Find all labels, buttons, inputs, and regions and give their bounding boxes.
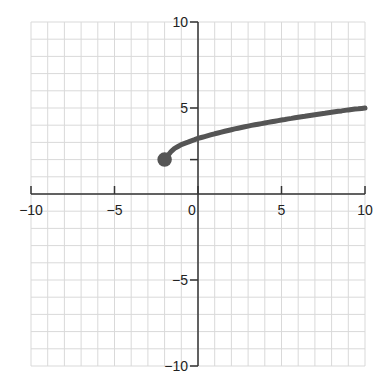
y-tick-label: −10 — [164, 358, 188, 374]
y-tick-label: −5 — [172, 272, 188, 288]
x-tick-label: −5 — [107, 202, 123, 218]
series-layer — [158, 108, 365, 166]
x-tick-label: 10 — [357, 202, 373, 218]
x-tick-label: −10 — [19, 202, 43, 218]
chart-canvas: −10−50510105−5−10 — [0, 0, 383, 384]
y-tick-label: 5 — [180, 100, 188, 116]
y-tick-label: 10 — [172, 14, 188, 30]
x-tick-label: 0 — [188, 202, 196, 218]
x-tick-label: 5 — [278, 202, 286, 218]
start-point-dot — [158, 153, 171, 166]
